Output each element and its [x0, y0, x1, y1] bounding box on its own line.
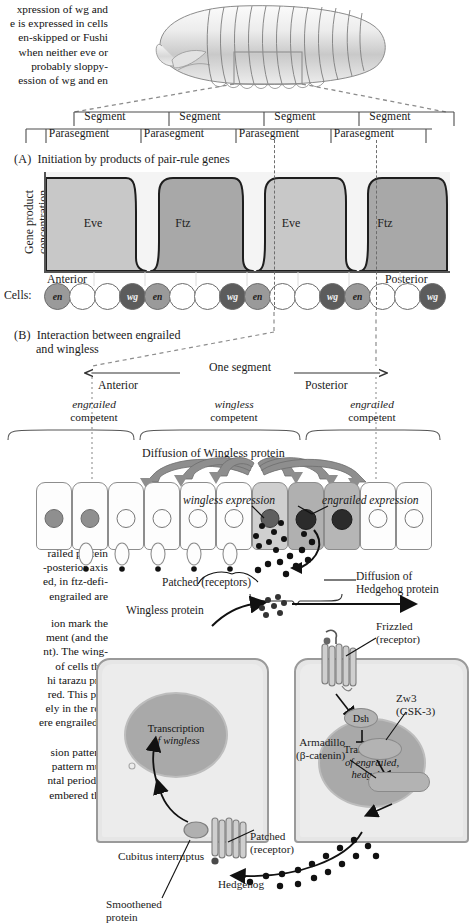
margin-line: of cells that: [0, 659, 108, 673]
zw3-leader-line: [380, 710, 410, 744]
competence-state: competent: [42, 411, 146, 424]
armadillo-leader-line: [348, 758, 382, 782]
margin-line: ion mark the: [0, 616, 108, 630]
competence-label-engrailed-right: engrailed competent: [320, 398, 424, 425]
cell-wg: wg: [219, 283, 246, 310]
competence-state: competent: [320, 411, 424, 424]
armadillo-line-2: (β-catenin): [296, 749, 345, 762]
guide-line-right: [376, 140, 377, 310]
hedgehog-label-leader: [322, 576, 362, 584]
armadillo-label: Armadillo (β-catenin): [296, 736, 345, 762]
hedgehog-label-panel-c: Hedgehog: [218, 878, 264, 891]
cell-blank: [394, 283, 421, 310]
cell-blank: [69, 283, 96, 310]
margin-line: pattern must: [0, 759, 108, 773]
cells-row-label: Cells:: [4, 288, 32, 303]
cell-wg: wg: [319, 283, 346, 310]
margin-line: red. This pat-: [0, 687, 108, 701]
cell-blank: [169, 283, 196, 310]
parasegment-label: Parasegment: [314, 127, 414, 140]
margin-line: xpression of wg and: [0, 2, 108, 16]
competence-state: competent: [182, 411, 286, 424]
frizzled-line-2: (receptor): [376, 633, 420, 646]
nucleus: [153, 509, 172, 528]
epithelial-cell: [36, 482, 72, 550]
guide-line-left: [274, 140, 275, 310]
margin-line: en-skipped or Fushi: [0, 30, 108, 44]
competence-label-wingless: wingless competent: [182, 398, 286, 425]
cell-wg: wg: [119, 283, 146, 310]
frizzled-label: Frizzled (receptor): [376, 620, 420, 646]
margin-text-block-1: xpression of wg and e is expressed in ce…: [0, 2, 108, 87]
peak-label-ftz-1: Ftz: [148, 216, 218, 231]
armadillo-line-1: Armadillo: [296, 736, 345, 749]
segment-label: Segment: [155, 110, 245, 123]
panel-a-letter: (A): [14, 152, 31, 166]
nucleus: [45, 509, 64, 528]
margin-text-block-3: ion mark the ment (and the nt). The wing…: [0, 616, 108, 730]
margin-line: ment (and the: [0, 630, 108, 644]
margin-line: sion patterns: [0, 745, 108, 759]
cell-blank: [194, 283, 221, 310]
competence-label-engrailed-left: engrailed competent: [42, 398, 146, 425]
margin-line: embered that: [0, 788, 108, 802]
parasegment-label: Parasegment: [29, 127, 129, 140]
cell-en: en: [44, 283, 71, 310]
margin-line: ere engrailed is: [0, 715, 108, 729]
peak-label-ftz-2: Ftz: [350, 216, 420, 231]
nucleus: [117, 509, 136, 528]
frizzled-leader-line: [342, 636, 382, 660]
cell-blank: [369, 283, 396, 310]
epithelial-cell: [396, 482, 432, 550]
nucleus: [81, 509, 100, 528]
margin-line: engrailed are: [0, 589, 108, 603]
smoothened-leader-line: [142, 836, 198, 902]
epithelial-cell: [108, 482, 144, 550]
peak-label-eve-1: Eve: [58, 216, 128, 231]
competence-gene: wingless: [182, 398, 286, 411]
panel-a-title: Initiation by products of pair-rule gene…: [37, 152, 229, 166]
epithelial-cell: [72, 482, 108, 550]
competence-brackets: [0, 426, 469, 442]
dsh-node: Dsh: [344, 708, 378, 728]
smoothened-line-2: protein: [106, 911, 162, 924]
segment-label: Segment: [345, 110, 435, 123]
signal-transduction-panel: Transcription of wingless Transcription …: [96, 630, 469, 843]
cell-blank: [94, 283, 121, 310]
cell-en: en: [244, 283, 271, 310]
epithelial-cell: [144, 482, 180, 550]
cell-en: en: [344, 283, 371, 310]
segment-label: Segment: [60, 110, 150, 123]
diffusion-hedgehog-label: Diffusion of Hedgehog protein: [356, 570, 439, 596]
parasegment-label: Parasegment: [219, 127, 319, 140]
chart-y-axis: [44, 172, 46, 272]
cell-wg: wg: [419, 283, 446, 310]
cell-en: en: [144, 283, 171, 310]
margin-line: ely in the row: [0, 701, 108, 715]
hedgehog-label-line-1: Diffusion of: [356, 570, 439, 583]
parasegment-label: Parasegment: [124, 127, 224, 140]
segment-label: Segment: [250, 110, 340, 123]
frizzled-line-1: Frizzled: [376, 620, 420, 633]
y-label-line-1: Gene product: [22, 190, 36, 254]
chart-y-axis-label: Gene product: [22, 172, 37, 272]
margin-line: ntal periodic-: [0, 773, 108, 787]
patched-leader-lines: [188, 560, 308, 588]
margin-line: hi tarazu pro-: [0, 673, 108, 687]
cells-row-a: en wg en wg en wg en wg: [44, 282, 450, 312]
margin-text-block-4: sion patterns pattern must ntal periodic…: [0, 745, 108, 802]
margin-line: probably sloppy-: [0, 59, 108, 73]
nucleus: [405, 509, 424, 528]
zw3-line-1: Zw3: [396, 692, 435, 705]
peak-label-eve-2: Eve: [256, 216, 326, 231]
competence-gene: engrailed: [320, 398, 424, 411]
cell-blank: [294, 283, 321, 310]
margin-line: e is expressed in cells: [0, 16, 108, 30]
margin-line: when neither eve or: [0, 45, 108, 59]
expression-leader-lines: [180, 498, 380, 526]
panel-a-heading: (A) Initiation by products of pair-rule …: [14, 152, 230, 166]
wingless-protein-label: Wingless protein: [126, 604, 204, 617]
margin-line: nt). The wing-: [0, 644, 108, 658]
hedgehog-label-line-2: Hedgehog protein: [356, 583, 439, 596]
